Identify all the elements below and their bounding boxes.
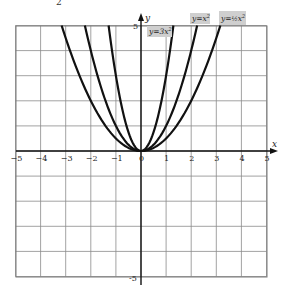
parabola-chart: 2 x y −5−4−3−2−1012345 5 -5 y=3x2 y=x2 y… [0,0,285,293]
x-tick-labels: −5−4−3−2−1012345 [11,154,270,163]
x-tick-label: −3 [61,154,73,163]
x-tick-label: 1 [164,154,169,163]
x-tick-label: −1 [111,154,123,163]
y-axis-arrow-icon [138,13,144,21]
x-tick-label: −5 [11,154,23,163]
x-tick-label: 4 [239,154,244,163]
y-axis-label: y [144,13,151,23]
cropped-page-fragment: 2 [56,0,62,7]
svg-text:y=½x2: y=½x2 [220,13,245,23]
x-tick-label: 2 [189,154,194,163]
label-y-half-x2: y=½x2 [219,11,246,25]
x-axis-label: x [272,139,277,149]
x-tick-label: 3 [214,154,219,163]
label-y-3x2: y=3x2 [147,26,172,37]
x-tick-label: 0 [139,154,144,163]
x-tick-label: −2 [86,154,98,163]
y-tick-neg5: -5 [129,274,137,283]
svg-text:y=3x2: y=3x2 [148,26,172,36]
label-y-x2: y=x2 [190,13,210,24]
y-tick-5: 5 [133,22,138,31]
x-tick-label: 5 [265,154,270,163]
x-tick-label: −4 [36,154,48,163]
